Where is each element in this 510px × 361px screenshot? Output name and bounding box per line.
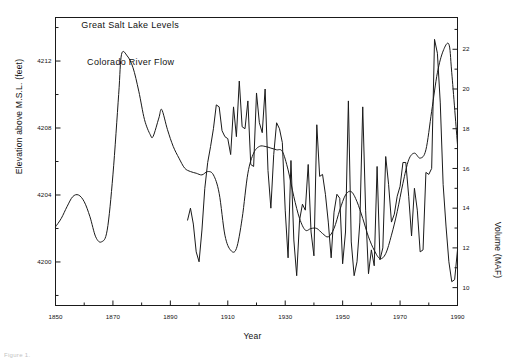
series-line-great-salt-lake [56, 43, 458, 259]
x-tick-label: 1890 [163, 313, 178, 320]
series-label-colorado-river: Colorado River Flow [87, 57, 174, 67]
y-right-tick-label: 12 [463, 244, 471, 251]
x-axis-ticks: 18501870189019101930195019701990 [48, 301, 465, 320]
y-left-tick-label: 4200 [37, 258, 52, 265]
x-axis-title: Year [244, 331, 262, 341]
series-label-great-salt-lake: Great Salt Lake Levels [81, 20, 179, 30]
x-tick-label: 1870 [106, 313, 121, 320]
x-tick-label: 1850 [48, 313, 63, 320]
y-right-tick-label: 10 [463, 284, 471, 291]
y-axis-left-ticks: 4200420442084212 [37, 28, 60, 296]
y-right-tick-label: 16 [463, 165, 471, 172]
y-left-tick-label: 4212 [37, 57, 52, 64]
figure-caption: Figure 1. [4, 352, 214, 360]
line-chart: 18501870189019101930195019701990 4200420… [0, 0, 510, 361]
y-left-tick-label: 4208 [37, 124, 52, 131]
data-series-group: Great Salt Lake LevelsColorado River Flo… [56, 20, 458, 282]
y-axis-left-title: Elevation above M.S.L. (feet) [14, 59, 24, 174]
x-tick-label: 1950 [336, 313, 351, 320]
x-tick-label: 1930 [278, 313, 293, 320]
figure-container: 18501870189019101930195019701990 4200420… [0, 0, 510, 361]
y-right-tick-label: 20 [463, 85, 471, 92]
x-tick-label: 1910 [221, 313, 236, 320]
y-axis-right-ticks: 10121416182022 [453, 29, 471, 290]
y-left-tick-label: 4204 [37, 191, 52, 198]
y-right-tick-label: 14 [463, 204, 471, 211]
axis-labels-group: YearElevation above M.S.L. (feet)Volume … [14, 59, 503, 341]
x-tick-label: 1970 [393, 313, 408, 320]
y-right-tick-label: 18 [463, 125, 471, 132]
y-axis-right-title: Volume (MAF) [493, 222, 503, 279]
x-tick-label: 1990 [450, 313, 465, 320]
y-right-tick-label: 22 [463, 45, 471, 52]
